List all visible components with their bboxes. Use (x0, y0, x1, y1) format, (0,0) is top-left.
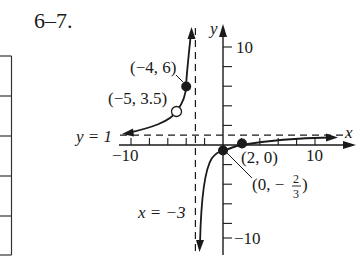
x-tick-label-10: 10 (306, 146, 323, 165)
x-tick-label-neg10: −10 (112, 146, 139, 165)
rational-function-graph: y x 10 −10 −10 10 y = 1 x = −3 (−4, 6) (… (0, 0, 361, 270)
svg-text:): ) (302, 175, 308, 194)
table-fragment (0, 56, 12, 255)
y-tick-label-10: 10 (236, 38, 253, 57)
y-tick-label-neg10: −10 (234, 229, 261, 248)
svg-text:(0, −: (0, − (252, 175, 284, 194)
left-branch-curve (122, 27, 196, 137)
point-label-2-0: (2, 0) (241, 148, 278, 167)
svg-text:3: 3 (293, 187, 299, 201)
y-axis (219, 24, 227, 255)
horizontal-asymptote-label: y = 1 (74, 127, 112, 146)
point-label-neg5-3-5: (−5, 3.5) (108, 89, 167, 108)
x-axis-label: x (344, 123, 353, 142)
point-2-0 (237, 139, 247, 149)
point-0-neg2-3 (218, 146, 228, 156)
point-label-neg4-6: (−4, 6) (130, 58, 176, 77)
point-label-0-neg2-3: (0, − 2 3 ) (252, 172, 308, 201)
leader-neg4-6 (176, 75, 183, 82)
y-ticks (223, 47, 232, 238)
svg-text:2: 2 (293, 172, 299, 186)
vertical-asymptote-label: x = −3 (137, 203, 186, 222)
y-axis-label: y (208, 19, 218, 38)
point-neg5-3-5-open (172, 107, 182, 117)
point-neg4-6 (181, 82, 191, 92)
